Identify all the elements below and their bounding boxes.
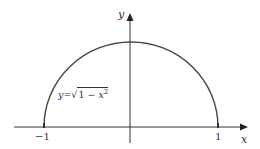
semicircle-curve xyxy=(44,42,218,127)
y-axis-arrow-icon xyxy=(127,13,134,21)
x-axis-label: x xyxy=(241,134,247,145)
y-axis-label: y xyxy=(118,9,124,20)
equation-radicand: 1 − x2 xyxy=(77,87,108,100)
x-axis-arrow-icon xyxy=(240,124,248,131)
radicand-minus: − xyxy=(87,89,95,100)
radicand-exponent: 2 xyxy=(104,88,108,96)
tick-label-left: −1 xyxy=(35,132,50,142)
curve-equation: y=√1 − x2 xyxy=(58,87,108,100)
diagram-canvas xyxy=(0,0,260,149)
tick-label-right: 1 xyxy=(215,132,221,142)
radicand-const: 1 xyxy=(78,89,84,100)
